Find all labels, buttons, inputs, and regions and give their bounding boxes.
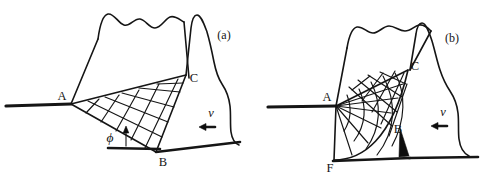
- workpiece-surface-line-a: [6, 104, 71, 106]
- tool-outline-b: [410, 23, 469, 156]
- machined-surface-line-right-b: [409, 157, 478, 158]
- fan-boundary-AF-b: [334, 106, 336, 160]
- chip-torn-top-edge-a: [98, 14, 184, 39]
- label-point-A-a: A: [57, 89, 66, 103]
- label-point-B-b: B: [394, 122, 402, 136]
- panel-a: A B C ϕ ν (a): [6, 14, 240, 169]
- label-point-C-a: C: [190, 71, 198, 85]
- label-point-C-b: C: [411, 59, 419, 73]
- shear-grid-a: [86, 79, 183, 148]
- caption-panel-a: (a): [217, 28, 230, 42]
- label-point-A-b: A: [322, 90, 331, 104]
- panel-b: A B C F ν (b): [268, 23, 478, 175]
- velocity-arrow-head-b: [431, 123, 438, 130]
- machined-surface-reference-a: [108, 148, 160, 149]
- cutting-diagram-svg: A B C ϕ ν (a): [0, 0, 484, 179]
- chip-left-flank-b: [336, 48, 347, 106]
- velocity-arrow-head-a: [199, 124, 206, 131]
- chip-torn-top-edge-b: [347, 25, 431, 48]
- phi-angle-arrow-head-a: [123, 126, 129, 133]
- label-phi-angle-a: ϕ: [107, 130, 114, 145]
- label-velocity-a: ν: [208, 106, 214, 120]
- caption-panel-b: (b): [445, 31, 459, 45]
- shear-edge-BC-a: [156, 75, 186, 152]
- label-point-F-b: F: [327, 161, 334, 175]
- fan-outer-arc-b: [334, 70, 408, 160]
- label-point-B-a: B: [159, 155, 167, 169]
- figure-canvas: A B C ϕ ν (a): [0, 0, 484, 179]
- chip-left-flank-a: [71, 39, 98, 104]
- workpiece-surface-line-b: [268, 106, 336, 107]
- label-velocity-b: ν: [440, 105, 446, 119]
- machined-surface-line-a: [156, 142, 240, 152]
